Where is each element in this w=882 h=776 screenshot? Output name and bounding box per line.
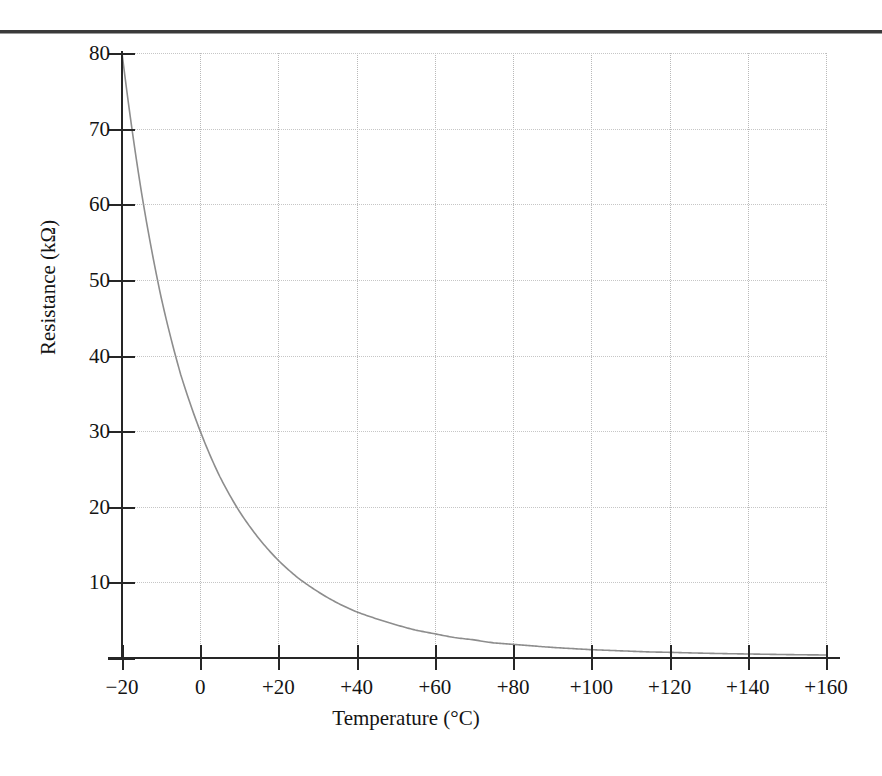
x-axis-tick [435,645,437,670]
y-axis-tick [108,507,135,509]
x-axis-tick-label: +60 [418,677,451,698]
x-axis-tick [278,645,280,670]
gridline-vertical [826,53,827,658]
x-axis-title-text: Temperature (°C) [332,706,479,730]
y-axis-tick [108,204,135,206]
y-axis-tick-label: 70 [89,118,110,139]
x-axis-tick-label: −20 [106,677,139,698]
x-axis-tick [122,645,124,670]
x-axis-tick-label: +100 [570,677,613,698]
y-axis-tick [108,53,135,55]
y-axis-tick-label: 30 [89,421,110,442]
x-axis-tick-label: +160 [804,677,847,698]
y-axis-tick-label: 60 [89,194,110,215]
x-axis-tick-label: +40 [340,677,373,698]
plot-area [122,53,826,658]
y-axis-tick [108,356,135,358]
y-axis-title: Resistance (kΩ) [36,220,61,355]
x-axis-tick-label: +20 [262,677,295,698]
x-axis-tick [200,645,202,670]
x-axis-tick-label: +140 [726,677,769,698]
y-axis-tick [108,431,135,433]
x-axis-tick [748,645,750,670]
y-axis-tick-label: 50 [89,269,110,290]
y-axis-tick-label: 40 [89,345,110,366]
x-axis-tick [826,645,828,670]
y-axis-tick [108,280,135,282]
x-axis-tick-label: 0 [195,677,206,698]
x-axis-tick [357,645,359,670]
y-axis-tick [108,582,135,584]
resistance-curve [122,53,826,658]
chart-figure: 1020304050607080 −200+20+40+60+80+100+12… [0,0,882,776]
x-axis-tick-label: +120 [648,677,691,698]
y-axis-tick-label: 10 [89,572,110,593]
x-axis-title: Temperature (°C) [0,706,882,731]
x-axis-tick [591,645,593,670]
x-axis-tick [513,645,515,670]
x-axis-tick [670,645,672,670]
y-axis: 1020304050607080 [121,51,123,660]
x-axis-tick-label: +80 [497,677,530,698]
x-axis: −200+20+40+60+80+100+120+140+160 [108,657,840,659]
y-axis-tick-label: 80 [89,43,110,64]
y-axis-tick-label: 20 [89,496,110,517]
y-axis-tick [108,129,135,131]
